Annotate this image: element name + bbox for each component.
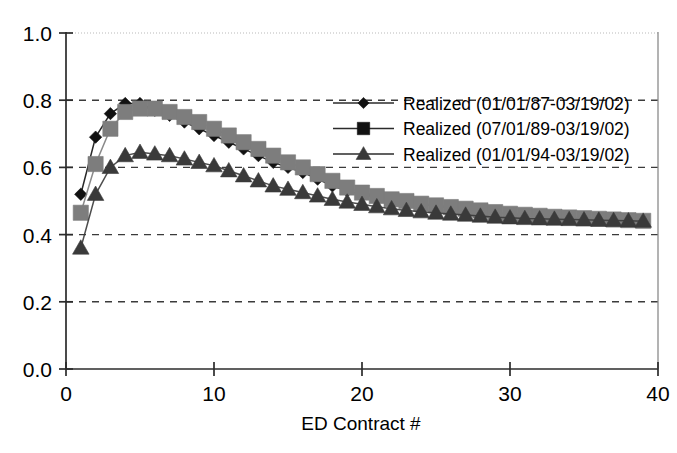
y-tick-label-5: 1.0 [23,22,52,45]
y-tick-label-2: 0.4 [23,224,53,247]
legend-item-1: Realized (07/01/89-03/19/02) [333,119,630,139]
legend-label-2: Realized (01/01/94-03/19/02) [403,145,630,165]
data-point-1-3 [118,104,133,119]
y-axis-tick-labels: 0.00.20.40.60.81.0 [23,22,53,381]
y-tick-label-0: 0.0 [23,358,52,381]
data-point-2-12 [250,173,267,187]
data-point-1-12 [251,141,266,156]
legend-label-0: Realized (01/01/87-03/19/02) [403,94,630,114]
data-point-1-4 [132,101,147,116]
data-point-1-8 [192,114,207,129]
data-point-1-17 [325,173,340,188]
data-point-1-18 [340,180,355,195]
legend-marker-diamond [358,97,369,108]
x-tick-label-0: 0 [60,382,72,405]
legend-marker-triangle [356,147,371,160]
x-axis-title: ED Contract # [301,413,421,434]
chart-legend: Realized (01/01/87-03/19/02)Realized (07… [333,94,630,165]
data-point-1-0 [73,205,88,220]
data-point-1-10 [221,128,236,143]
chart-figure: 0.00.20.40.60.81.0 010203040 Realized (0… [0,0,677,453]
data-point-2-4 [132,144,149,158]
y-tick-label-4: 0.8 [23,89,52,112]
x-tick-label-1: 10 [202,382,225,405]
data-point-1-1 [88,156,103,171]
data-point-1-6 [162,104,177,119]
data-point-1-13 [266,148,281,163]
data-point-1-14 [280,155,295,170]
data-point-2-0 [73,240,90,254]
data-point-2-2 [102,159,119,173]
data-point-1-2 [103,121,118,136]
legend-item-0: Realized (01/01/87-03/19/02) [333,94,630,114]
data-point-1-15 [295,160,310,175]
legend-label-1: Realized (07/01/89-03/19/02) [403,119,630,139]
data-point-1-11 [236,135,251,150]
legend-marker-square [357,122,369,134]
chart-canvas: 0.00.20.40.60.81.0 010203040 Realized (0… [0,0,677,453]
data-point-0-1 [89,131,101,143]
y-tick-label-3: 0.6 [23,156,52,179]
data-point-2-10 [221,162,238,176]
legend-item-2: Realized (01/01/94-03/19/02) [333,145,630,165]
data-point-1-9 [206,121,221,136]
x-tick-label-2: 20 [350,382,373,405]
x-axis-tick-labels: 010203040 [60,382,670,405]
data-point-2-1 [87,186,104,200]
data-point-0-2 [104,107,116,119]
gridlines [66,33,658,302]
x-tick-label-3: 30 [498,382,521,405]
data-point-2-11 [235,168,252,182]
x-tick-label-4: 40 [646,382,669,405]
y-tick-label-1: 0.2 [23,291,52,314]
data-point-1-5 [147,101,162,116]
data-point-2-13 [265,178,282,192]
data-point-1-16 [310,167,325,182]
data-point-1-7 [177,109,192,124]
